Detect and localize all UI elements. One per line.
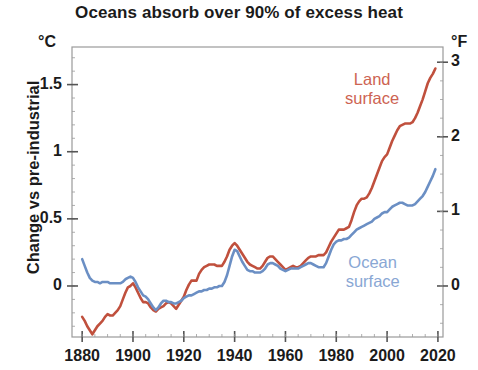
series-annotation-ocean-line2: surface [346, 272, 400, 291]
series-annotation-land-line1: Land [345, 70, 399, 89]
series-annotation-land: Land surface [345, 70, 399, 108]
chart-figure: Oceans absorb over 90% of excess heat °C… [0, 0, 478, 370]
right-axis-tick-label-0: 0 [451, 276, 478, 294]
right-axis-unit: °F [451, 33, 467, 51]
x-axis-tick-label-1: 1900 [105, 347, 161, 365]
x-axis-tick-label-6: 2000 [359, 347, 415, 365]
x-axis-tick-label-0: 1880 [54, 347, 110, 365]
x-axis-tick-label-7: 2020 [410, 347, 466, 365]
right-axis-tick-label-3: 3 [451, 52, 478, 70]
x-axis-tick-label-4: 1960 [257, 347, 313, 365]
x-axis-tick-label-2: 1920 [156, 347, 212, 365]
right-axis-tick-label-1: 1 [451, 201, 478, 219]
left-axis-unit: °C [38, 33, 56, 51]
left-axis-tick-label-2: 1 [16, 142, 62, 160]
series-annotation-ocean: Ocean surface [346, 253, 400, 291]
series-annotation-land-line2: surface [345, 89, 399, 108]
left-axis-tick-label-0: 0 [16, 276, 62, 294]
left-axis-tick-label-1: 0.5 [16, 209, 62, 227]
x-axis-tick-label-5: 1980 [308, 347, 364, 365]
series-annotation-ocean-line1: Ocean [346, 253, 400, 272]
x-axis-tick-label-3: 1940 [207, 347, 263, 365]
left-axis-tick-label-3: 1.5 [16, 75, 62, 93]
right-axis-tick-label-2: 2 [451, 127, 478, 145]
chart-title: Oceans absorb over 90% of excess heat [0, 3, 478, 23]
plot-area [0, 0, 478, 370]
